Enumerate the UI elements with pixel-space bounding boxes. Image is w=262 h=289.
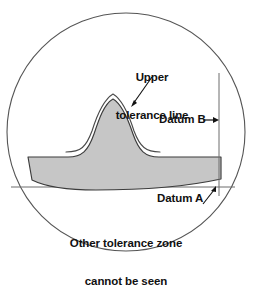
upper-tolerance-line-label: Upper tolerance line [104,45,200,148]
upper-tolerance-line-label-row1: Upper [104,71,200,84]
other-tolerance-zone-note: Other tolerance zone cannot be seen [31,211,221,289]
other-tolerance-zone-note-row1: Other tolerance zone [31,237,221,250]
other-tolerance-zone-note-row2: cannot be seen [31,275,221,288]
datum-b-label: Datum B [159,113,206,126]
datum-a-label: Datum A [157,192,203,205]
